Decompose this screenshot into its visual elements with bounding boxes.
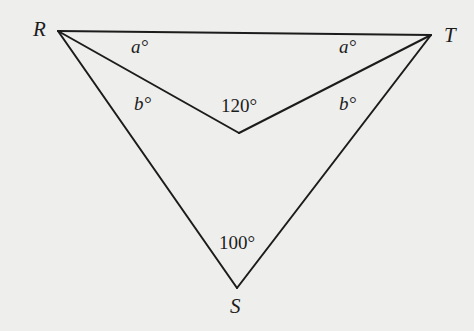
angle-label-a-right: a° <box>339 37 356 56</box>
geometry-diagram: R T S a° a° b° b° 120° 100° <box>0 0 474 331</box>
segment-RP <box>58 31 239 133</box>
segment-RS <box>58 31 237 288</box>
vertex-label-S: S <box>230 296 241 317</box>
segment-RT <box>58 31 431 35</box>
angle-label-b-right: b° <box>339 94 356 113</box>
segment-TS <box>237 35 431 288</box>
triangle-figure <box>0 0 474 331</box>
angle-label-100: 100° <box>219 233 255 252</box>
angle-label-b-left: b° <box>134 94 151 113</box>
angle-label-a-left: a° <box>131 37 148 56</box>
angle-label-120: 120° <box>221 96 257 115</box>
segment-TP <box>239 35 431 133</box>
vertex-label-R: R <box>33 19 46 40</box>
vertex-label-T: T <box>444 25 456 46</box>
